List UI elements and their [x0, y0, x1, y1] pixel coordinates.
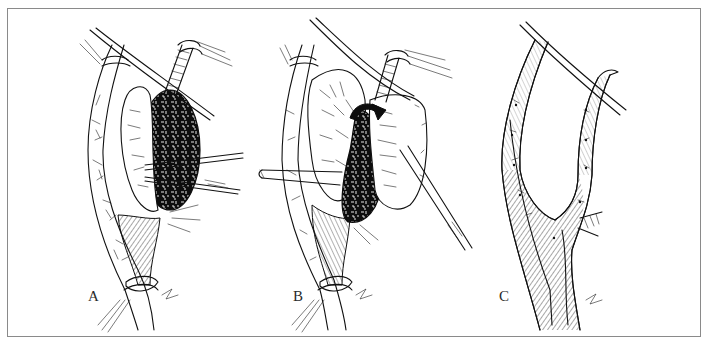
panel-b: B: [250, 0, 480, 346]
panel-a: A: [0, 0, 250, 346]
panel-a-drawing: [0, 0, 250, 346]
panel-label-c: C: [499, 289, 509, 304]
panel-label-b: B: [293, 289, 303, 304]
panel-b-drawing: [250, 0, 480, 346]
panel-label-a: A: [88, 289, 99, 304]
panel-c: C: [480, 0, 660, 346]
